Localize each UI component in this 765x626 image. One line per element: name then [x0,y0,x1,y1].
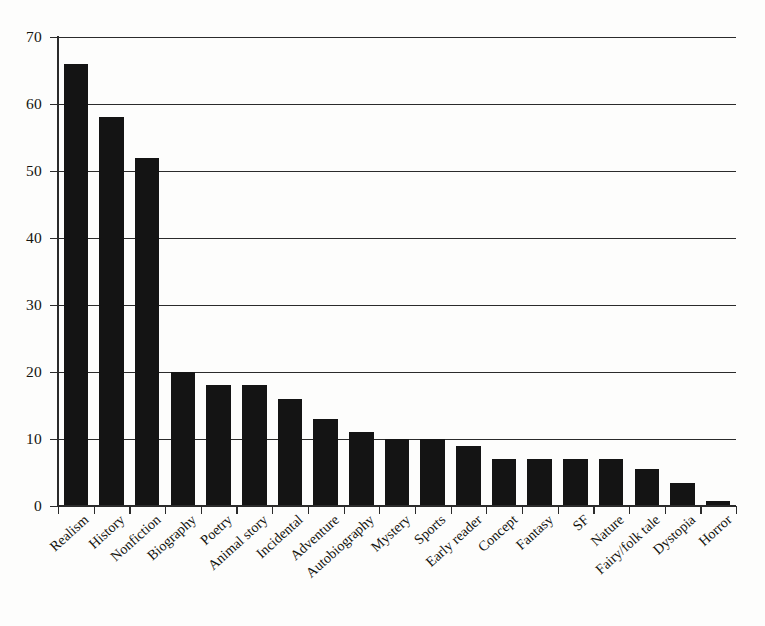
y-axis-line [57,36,59,507]
x-axis-tick-5 [236,506,237,514]
bar-history [99,117,124,506]
x-axis-tick-12 [486,506,487,514]
bar-biography [171,372,196,506]
x-axis-label-sf: SF [570,512,592,534]
x-axis-label-mystery: Mystery [368,512,413,555]
y-axis-tick-label-60: 60 [8,96,42,112]
bar-nonfiction [135,158,160,506]
bar-sf [563,459,588,506]
y-axis-tick-70 [50,37,58,38]
bar-realism [64,64,89,506]
bar-nature [599,459,624,506]
y-axis-tick-label-70: 70 [8,29,42,45]
y-axis-tick-label-10: 10 [8,431,42,447]
y-axis-tick-60 [50,104,58,105]
y-axis-tick-20 [50,372,58,373]
bar-animal-story [242,385,267,506]
x-axis-tick-6 [272,506,273,514]
gridline-70 [58,37,736,38]
x-axis-tick-9 [379,506,380,514]
y-axis-tick-label-0: 0 [8,498,42,514]
x-axis-line [57,505,736,507]
y-axis-tick-label-40: 40 [8,230,42,246]
bar-autobiography [349,432,374,506]
bar-poetry [206,385,231,506]
y-axis-tick-30 [50,305,58,306]
x-axis-label-horror: Horror [695,512,734,549]
y-axis-tick-50 [50,171,58,172]
y-axis-tick-label-50: 50 [8,163,42,179]
y-axis-tick-0 [50,506,58,507]
x-axis-tick-17 [665,506,666,514]
x-axis-tick-15 [593,506,594,514]
bar-mystery [385,439,410,506]
y-axis-tick-10 [50,439,58,440]
bar-dystopia [670,483,695,507]
bar-adventure [313,419,338,506]
x-axis-tick-4 [201,506,202,514]
gridline-20 [58,372,736,373]
x-axis-tick-11 [451,506,452,514]
bar-sports [420,439,445,506]
x-axis-tick-18 [700,506,701,514]
bar-early-reader [456,446,481,506]
x-axis-label-realism: Realism [47,512,92,554]
gridline-40 [58,238,736,239]
x-axis-tick-1 [94,506,95,514]
x-axis-tick-0 [58,506,59,514]
x-axis-tick-3 [165,506,166,514]
x-axis-label-fantasy: Fantasy [513,512,556,553]
x-axis-tick-7 [308,506,309,514]
bar-fairy-folk-tale [635,469,660,506]
y-axis-tick-label-20: 20 [8,364,42,380]
x-axis-tick-16 [629,506,630,514]
bar-chart-figure: 010203040506070 RealismHistoryNonfiction… [0,0,765,626]
bar-fantasy [527,459,552,506]
x-axis-tick-13 [522,506,523,514]
x-axis-tick-14 [558,506,559,514]
gridline-50 [58,171,736,172]
gridline-60 [58,104,736,105]
x-axis-tick-19 [736,506,737,514]
bar-concept [492,459,517,506]
x-axis-tick-8 [344,506,345,514]
x-axis-tick-10 [415,506,416,514]
y-axis-tick-40 [50,238,58,239]
bar-incidental [278,399,303,506]
y-axis-tick-label-30: 30 [8,297,42,313]
x-axis-tick-2 [129,506,130,514]
gridline-30 [58,305,736,306]
